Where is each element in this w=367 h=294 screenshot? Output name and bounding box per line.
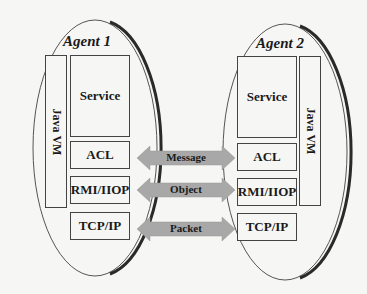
- arrow-object-label: Object: [170, 183, 202, 195]
- agent-communication-diagram: Agent 1 Java VM Service ACL RMI/IIOP TCP…: [0, 0, 367, 294]
- agent-1-java-vm-label: Java VM: [49, 108, 64, 155]
- agent-2-rmi-iiop-layer: RMI/IIOP: [237, 178, 297, 206]
- agent-2-service-layer: Service: [237, 56, 297, 138]
- agent-1-service-layer: Service: [70, 55, 130, 137]
- agent-1-tcp-ip-layer: TCP/IP: [70, 212, 130, 240]
- agent-1-java-vm: Java VM: [45, 55, 67, 208]
- agent-2-tcp-ip-layer: TCP/IP: [237, 213, 297, 241]
- agent-1-title: Agent 1: [63, 33, 111, 50]
- agent-1-rmi-iiop-layer: RMI/IIOP: [70, 176, 130, 204]
- agent-2-title: Agent 2: [256, 35, 304, 52]
- agent-2-acl-layer: ACL: [237, 143, 297, 171]
- agent-2-java-vm: Java VM: [299, 56, 321, 206]
- agent-2-java-vm-label: Java VM: [303, 108, 318, 155]
- agent-1-acl-layer: ACL: [70, 141, 130, 169]
- arrow-message-label: Message: [166, 151, 206, 163]
- arrow-packet-label: Packet: [170, 222, 202, 234]
